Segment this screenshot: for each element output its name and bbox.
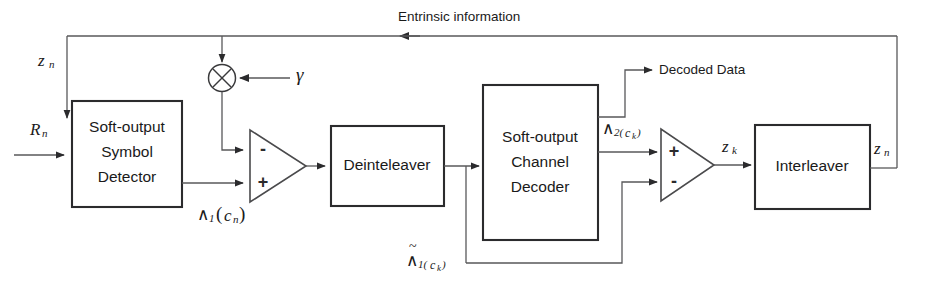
zn-right-base: z bbox=[873, 139, 881, 158]
right-subtractor-top-sign: + bbox=[669, 141, 680, 161]
block-diagram-canvas: Entrinsic information z n γ Soft-output … bbox=[0, 0, 935, 286]
gamma-label: γ bbox=[296, 64, 304, 85]
channel-decoder-line-2: Channel bbox=[511, 153, 569, 170]
lambda1-tilde-ck-label: ~ ∧ 1( c k ) bbox=[406, 239, 446, 273]
zk-base: z bbox=[721, 137, 729, 156]
decoded-data-path bbox=[598, 70, 652, 117]
zn-right-sub: n bbox=[884, 146, 890, 158]
left-subtractor-top-sign: - bbox=[260, 139, 266, 159]
lambda1-open-paren: ( bbox=[216, 203, 222, 225]
decoded-data-label: Decoded Data bbox=[659, 62, 746, 77]
zn-left-base: z bbox=[37, 51, 45, 70]
interleaver-label: Interleaver bbox=[775, 157, 848, 174]
lambda1-tilde-var: c bbox=[430, 258, 436, 272]
lambda1-tilde-sub: 1( bbox=[418, 258, 429, 271]
zn-right-label: z n bbox=[873, 139, 890, 158]
left-subtractor-bottom-sign: + bbox=[258, 172, 269, 192]
extrinsic-information-label: Entrinsic information bbox=[398, 9, 520, 24]
lambda2-sub: 2( bbox=[614, 126, 625, 139]
rn-sub: n bbox=[42, 127, 48, 139]
lambda1-tilde-wedge: ∧ bbox=[406, 251, 418, 270]
symbol-detector-line-1: Soft-output bbox=[89, 118, 166, 135]
deinterleaver-label: Deinteleaver bbox=[343, 156, 430, 173]
rn-base: R bbox=[29, 120, 41, 139]
lambda1-sub: 1 bbox=[209, 212, 215, 224]
lambda1-tilde-close-paren: ) bbox=[441, 258, 446, 271]
lambda2-wedge: ∧ bbox=[602, 119, 614, 138]
right-subtractor[interactable]: + - bbox=[661, 129, 714, 201]
lambda1-close-paren: ) bbox=[239, 203, 245, 225]
lambda2-close-paren: ) bbox=[636, 126, 641, 139]
diagram-svg: Entrinsic information z n γ Soft-output … bbox=[0, 0, 935, 286]
lambda2-var: c bbox=[625, 126, 631, 140]
symbol-detector-line-2: Symbol bbox=[101, 143, 153, 160]
zk-sub: k bbox=[732, 144, 738, 156]
channel-decoder-line-3: Decoder bbox=[511, 178, 570, 195]
zn-left-label: z n bbox=[37, 51, 55, 70]
right-subtractor-bottom-sign: - bbox=[671, 171, 677, 191]
channel-decoder-line-1: Soft-output bbox=[502, 128, 579, 145]
lambda1-cn-label: ∧ 1 ( c n ) bbox=[197, 203, 245, 225]
lambda1-var: c bbox=[224, 206, 232, 225]
lambda1-wedge: ∧ bbox=[197, 205, 209, 224]
left-subtractor[interactable]: - + bbox=[250, 130, 306, 202]
symbol-detector-line-3: Detector bbox=[98, 168, 157, 185]
zn-left-sub: n bbox=[49, 58, 55, 70]
rn-input-label: R n bbox=[29, 120, 48, 139]
lambda2-ck-label: ∧ 2( c k ) bbox=[602, 119, 641, 141]
zk-label: z k bbox=[721, 137, 738, 156]
